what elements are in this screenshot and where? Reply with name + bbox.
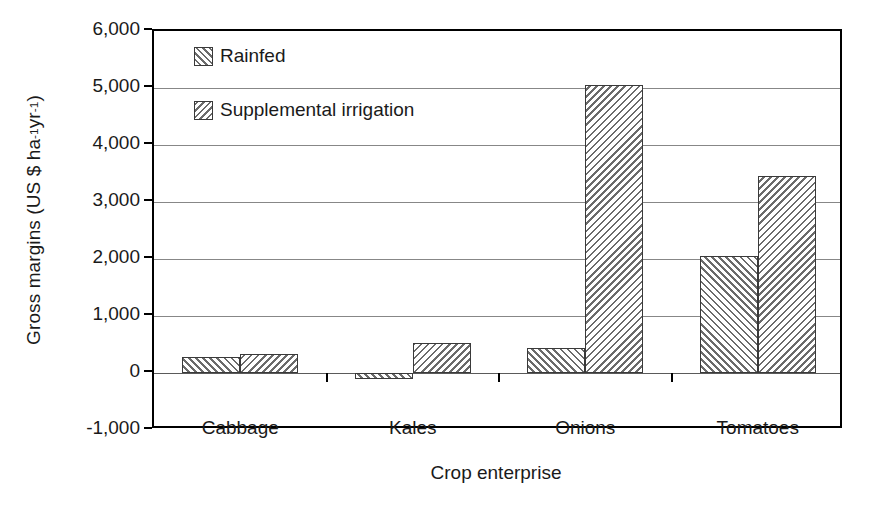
x-axis-tick: [671, 373, 673, 382]
x-axis-tick: [498, 373, 500, 382]
y-axis-tick-label-wrap: 2,000: [36, 247, 140, 267]
y-axis-tick: [144, 199, 152, 201]
y-axis-tick-label-wrap: 5,000: [36, 76, 140, 96]
x-axis-label-tomatoes: Tomatoes: [672, 417, 845, 439]
y-axis-tick: [144, 85, 152, 87]
y-axis-tick: [144, 313, 152, 315]
bar-onions-supplemental-irrigation: [585, 85, 643, 373]
y-axis-tick-label-wrap: 1,000: [36, 304, 140, 324]
y-axis-tick-label: 4,000: [44, 133, 140, 152]
bar-onions-rainfed: [527, 348, 585, 373]
bar-kales-rainfed: [355, 373, 413, 379]
y-axis-tick-label-wrap: -1,000: [36, 418, 140, 438]
y-axis-tick: [144, 427, 152, 429]
x-axis-label-cabbage: Cabbage: [154, 417, 327, 439]
bar-kales-supplemental-irrigation: [413, 343, 471, 373]
y-axis-title-suffix: ): [23, 95, 45, 101]
y-axis-tick-label: -1,000: [44, 418, 140, 437]
y-axis-tick: [144, 28, 152, 30]
y-axis-tick: [144, 142, 152, 144]
legend-label-rainfed: Rainfed: [220, 45, 286, 67]
y-axis-tick-label: 1,000: [44, 304, 140, 323]
y-axis-tick-label-wrap: 0: [36, 361, 140, 381]
x-axis-tick: [326, 373, 328, 382]
bar-chart-figure: Gross margins (US $ ha-1 yr-1) -1,00001,…: [0, 0, 874, 506]
y-axis-tick: [144, 256, 152, 258]
y-axis-tick-label: 6,000: [44, 19, 140, 38]
y-axis-tick-label: 0: [44, 361, 140, 380]
chart-legend: Rainfed Supplemental irrigation: [194, 43, 414, 151]
legend-item-supplemental-irrigation: Supplemental irrigation: [194, 97, 414, 123]
y-axis-title-mid: yr: [23, 112, 45, 128]
legend-swatch-rainfed-icon: [194, 47, 213, 66]
bar-tomatoes-rainfed: [700, 256, 758, 373]
bar-cabbage-rainfed: [182, 357, 240, 373]
y-axis-tick-label: 5,000: [44, 76, 140, 95]
legend-item-rainfed: Rainfed: [194, 43, 414, 69]
x-axis-title: Crop enterprise: [150, 462, 842, 484]
legend-swatch-supplemental-irrigation-icon: [194, 101, 213, 120]
bar-tomatoes-supplemental-irrigation: [758, 176, 816, 373]
y-axis-tick-label: 3,000: [44, 190, 140, 209]
plot-area: CabbageKalesOnionsTomatoes Rainfed Suppl…: [152, 29, 842, 428]
y-axis-tick-label-wrap: 3,000: [36, 190, 140, 210]
legend-label-supplemental-irrigation: Supplemental irrigation: [220, 99, 414, 121]
x-axis-label-onions: Onions: [499, 417, 672, 439]
y-axis-tick: [144, 370, 152, 372]
x-axis-label-kales: Kales: [327, 417, 500, 439]
bar-cabbage-supplemental-irrigation: [240, 354, 298, 373]
gridline: [154, 202, 840, 203]
y-axis-tick-label-wrap: 4,000: [36, 133, 140, 153]
y-axis-tick-label-wrap: 6,000: [36, 19, 140, 39]
y-axis-tick-label: 2,000: [44, 247, 140, 266]
